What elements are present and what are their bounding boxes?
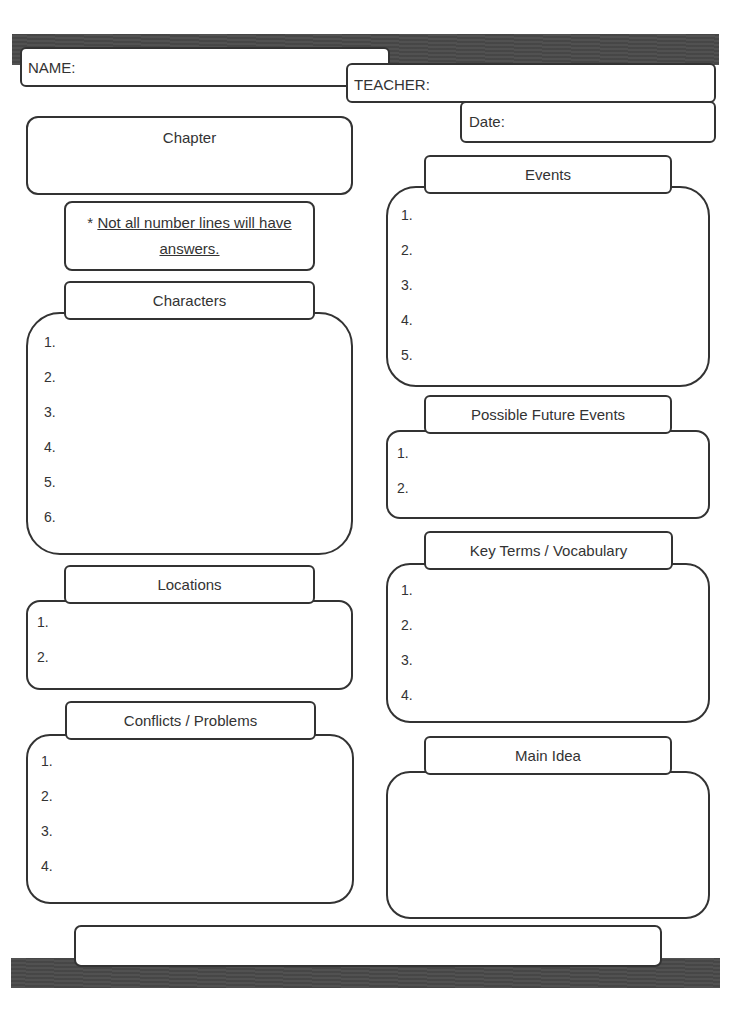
main-idea-panel[interactable] xyxy=(386,771,710,919)
locations-item-2: 2. xyxy=(37,649,49,665)
locations-item-1: 1. xyxy=(37,614,49,630)
characters-panel[interactable]: 1. 2. 3. 4. 5. 6. xyxy=(26,312,353,555)
vocabulary-item-3: 3. xyxy=(401,652,413,668)
chapter-label: Chapter xyxy=(28,129,351,146)
teacher-field[interactable]: TEACHER: xyxy=(346,63,716,103)
vocabulary-item-1: 1. xyxy=(401,582,413,598)
date-label: Date: xyxy=(469,113,505,130)
future-events-panel[interactable]: 1. 2. xyxy=(386,430,710,519)
characters-item-5: 5. xyxy=(44,474,56,490)
characters-item-1: 1. xyxy=(44,334,56,350)
locations-panel[interactable]: 1. 2. xyxy=(26,600,353,690)
events-title: Events xyxy=(424,155,672,194)
note-line2: answers. xyxy=(159,240,219,257)
teacher-label: TEACHER: xyxy=(354,76,430,93)
locations-title-text: Locations xyxy=(157,576,221,593)
characters-item-4: 4. xyxy=(44,439,56,455)
conflicts-panel[interactable]: 1. 2. 3. 4. xyxy=(26,734,354,904)
conflicts-title-text: Conflicts / Problems xyxy=(124,712,257,729)
vocabulary-title-text: Key Terms / Vocabulary xyxy=(470,542,627,559)
note-line1: Not all number lines will have xyxy=(97,214,291,231)
date-field[interactable]: Date: xyxy=(460,101,716,143)
characters-item-6: 6. xyxy=(44,509,56,525)
characters-title: Characters xyxy=(64,281,315,320)
main-idea-title: Main Idea xyxy=(424,736,672,775)
events-item-5: 5. xyxy=(401,347,413,363)
locations-title: Locations xyxy=(64,565,315,604)
future-events-item-2: 2. xyxy=(397,480,409,496)
future-events-item-1: 1. xyxy=(397,445,409,461)
main-idea-title-text: Main Idea xyxy=(515,747,581,764)
note-text: * Not all number lines will have answers… xyxy=(66,210,313,262)
vocabulary-title: Key Terms / Vocabulary xyxy=(424,531,673,570)
footer-box[interactable] xyxy=(74,925,662,967)
vocabulary-item-4: 4. xyxy=(401,687,413,703)
name-field[interactable]: NAME: xyxy=(20,47,390,87)
characters-title-text: Characters xyxy=(153,292,226,309)
events-item-4: 4. xyxy=(401,312,413,328)
conflicts-item-2: 2. xyxy=(41,788,53,804)
conflicts-item-4: 4. xyxy=(41,858,53,874)
conflicts-item-3: 3. xyxy=(41,823,53,839)
characters-item-2: 2. xyxy=(44,369,56,385)
future-events-title: Possible Future Events xyxy=(424,395,672,434)
conflicts-title: Conflicts / Problems xyxy=(65,701,316,740)
characters-item-3: 3. xyxy=(44,404,56,420)
events-panel[interactable]: 1. 2. 3. 4. 5. xyxy=(386,186,710,387)
vocabulary-panel[interactable]: 1. 2. 3. 4. xyxy=(386,563,710,723)
future-events-title-text: Possible Future Events xyxy=(471,406,625,423)
chapter-box[interactable]: Chapter xyxy=(26,116,353,195)
events-item-3: 3. xyxy=(401,277,413,293)
events-item-2: 2. xyxy=(401,242,413,258)
note-asterisk: * xyxy=(87,214,93,231)
events-item-1: 1. xyxy=(401,207,413,223)
events-title-text: Events xyxy=(525,166,571,183)
conflicts-item-1: 1. xyxy=(41,753,53,769)
name-label: NAME: xyxy=(28,59,76,76)
note-box: * Not all number lines will have answers… xyxy=(64,201,315,271)
vocabulary-item-2: 2. xyxy=(401,617,413,633)
